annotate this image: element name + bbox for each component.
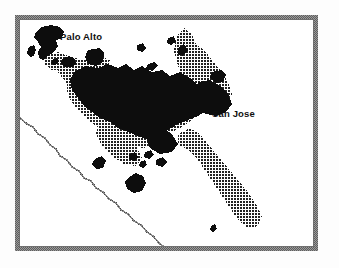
map-label-san-jose: San Jose [212, 109, 255, 119]
map-figure: Palo Alto San Jose [0, 0, 339, 268]
map-label-palo-alto: Palo Alto [60, 32, 102, 42]
map-body [20, 20, 313, 246]
map-canvas [0, 0, 339, 268]
